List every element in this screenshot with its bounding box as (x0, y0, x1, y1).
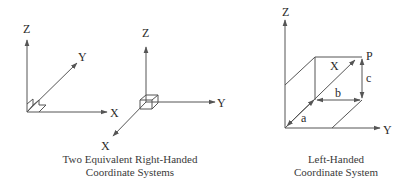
caption-left-handed: Left-Handed Coordinate System (262, 153, 409, 179)
y-label-2: Y (217, 96, 226, 110)
x-label-3: X (330, 59, 339, 73)
point-p-label: P (366, 49, 373, 63)
z-label-3: Z (282, 5, 289, 19)
x-label-1: X (110, 106, 119, 120)
caption-right-handed-line2: Coordinate Systems (20, 166, 240, 179)
box-bottom-slant (332, 100, 362, 128)
caption-right-handed: Two Equivalent Right-Handed Coordinate S… (20, 153, 240, 179)
y-label-3: Y (383, 123, 392, 137)
c-label: c (366, 71, 371, 85)
z-label-2: Z (142, 26, 149, 40)
right-handed-system-2 (113, 47, 215, 136)
box-left-slant (285, 57, 315, 85)
caption-left-handed-line1: Left-Handed (262, 153, 409, 166)
a-dimension-arrow (287, 113, 300, 126)
b-label: b (335, 86, 341, 100)
right-handed-system-1 (27, 40, 107, 112)
a-label: a (301, 111, 307, 125)
y-axis-1 (27, 63, 77, 112)
handedness-corner-glyph-1 (27, 99, 46, 112)
caption-right-handed-line1: Two Equivalent Right-Handed (20, 153, 240, 166)
y-label-1: Y (78, 50, 87, 64)
caption-left-handed-line2: Coordinate System (262, 166, 409, 179)
z-label-1: Z (23, 22, 30, 36)
x-label-2: X (101, 139, 110, 153)
